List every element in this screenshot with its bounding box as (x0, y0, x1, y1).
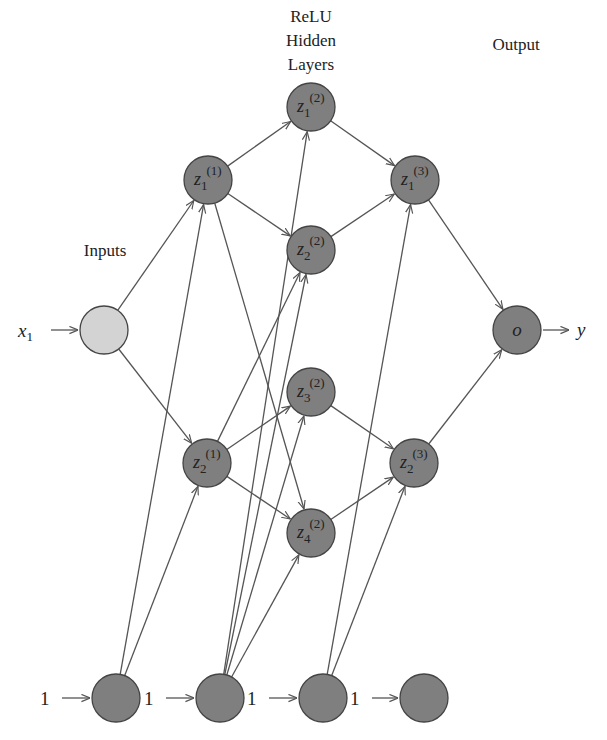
node-b1 (92, 674, 140, 722)
node-b4 (400, 674, 448, 722)
x1-label: x1 (17, 320, 33, 344)
node-b3 (299, 674, 347, 722)
edge-b2-to-z4_2 (232, 555, 299, 677)
node-z2_3: z2(3) (390, 439, 438, 487)
edge-x1-to-z1_1 (118, 201, 194, 311)
edge-z1_1-to-z2_2 (228, 194, 290, 236)
bias-label-2: 1 (247, 688, 257, 709)
edge-x1-to-z2_1 (119, 349, 192, 443)
edge-z2_2-to-z1_3 (331, 194, 394, 237)
bias-node-circle (400, 674, 448, 722)
bias-label-1: 1 (144, 688, 154, 709)
edge-b1-to-z2_1 (125, 486, 198, 675)
node-o: o (493, 306, 541, 354)
inputs-title: Inputs (84, 241, 127, 260)
edge-z2_1-to-z4_2 (227, 476, 290, 519)
edge-b3-to-z2_3 (332, 486, 405, 675)
node-b2 (196, 674, 244, 722)
bias-label-3: 1 (350, 688, 360, 709)
bias-node-circle (299, 674, 347, 722)
input-node-circle (80, 306, 128, 354)
bias-label-0: 1 (40, 688, 50, 709)
hidden-layers-title-line2: Hidden (286, 31, 337, 50)
node-label: o (512, 319, 522, 340)
hidden-layers-title-line3: Layers (288, 55, 334, 74)
neural-network-diagram: ReLU Hidden Layers Output Inputs x1 y 1 … (0, 0, 607, 740)
node-z4_2: z4(2) (287, 509, 335, 557)
output-title: Output (492, 35, 540, 54)
edge-z3_2-to-z2_3 (331, 406, 394, 449)
edge-z4_2-to-z2_3 (331, 477, 394, 519)
edge-z2_1-to-z2_2 (218, 273, 301, 442)
edge-z1_2-to-z1_3 (331, 121, 395, 166)
node-z1_1: z1(1) (184, 156, 232, 204)
bias-node-circle (196, 674, 244, 722)
node-x1 (80, 306, 128, 354)
nodes-group: z1(1)z2(1)z1(2)z2(2)z3(2)z4(2)z1(3)z2(3)… (80, 83, 541, 722)
node-z2_2: z2(2) (287, 226, 335, 274)
edge-b3-to-z1_3 (327, 205, 410, 675)
bias-node-circle (92, 674, 140, 722)
edge-z1_3-to-o (429, 200, 503, 309)
node-z2_1: z2(1) (183, 439, 231, 487)
edge-z1_1-to-z1_2 (228, 122, 291, 167)
node-z1_2: z1(2) (287, 83, 335, 131)
hidden-layers-title-line1: ReLU (290, 7, 332, 26)
node-z1_3: z1(3) (391, 156, 439, 204)
edge-b1-to-z1_1 (120, 205, 203, 675)
y-label: y (575, 319, 586, 340)
edge-z2_3-to-o (429, 350, 502, 444)
node-z3_2: z3(2) (287, 368, 335, 416)
